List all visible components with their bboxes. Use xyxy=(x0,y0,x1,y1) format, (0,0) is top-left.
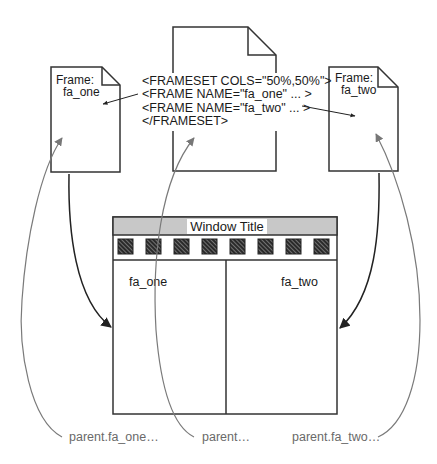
toolbar-button-icon[interactable] xyxy=(118,239,133,254)
arrow-fa-two-to-pane xyxy=(340,173,379,328)
caption-parent-fa-one: parent.fa_one… xyxy=(69,430,159,444)
frames-diagram: Frame: fa_one Frame: fa_two <FRAMESET CO… xyxy=(0,0,437,464)
frame-doc-fa-two: Frame: fa_two xyxy=(329,67,398,171)
window-title: Window Title xyxy=(190,219,264,234)
code-line: </FRAMESET> xyxy=(142,114,228,128)
toolbar-button-icon[interactable] xyxy=(286,239,301,254)
frame-doc-fa-one: Frame: fa_one xyxy=(51,67,120,172)
right-pane-label: fa_two xyxy=(281,275,318,289)
toolbar-button-icon[interactable] xyxy=(230,239,245,254)
toolbar-button-icon[interactable] xyxy=(202,239,217,254)
curve-parent-fa-two xyxy=(376,134,420,437)
caption-parent-fa-two: parent.fa_two… xyxy=(292,430,380,444)
browser-window: Window Title fa_one fa_two xyxy=(113,217,337,414)
curve-parent-fa-one xyxy=(21,138,62,437)
caption-parent: parent… xyxy=(202,430,250,444)
arrow-fa-one-to-pane xyxy=(69,174,111,327)
frame-doc-name: fa_two xyxy=(341,83,377,97)
code-line: <FRAME NAME="fa_two" ... > xyxy=(142,101,310,115)
toolbar-button-icon[interactable] xyxy=(258,239,273,254)
toolbar-button-icon[interactable] xyxy=(174,239,189,254)
toolbar-button-icon[interactable] xyxy=(314,239,329,254)
code-line: <FRAME NAME="fa_one" ... > xyxy=(142,87,312,101)
left-pane-label: fa_one xyxy=(129,275,167,289)
code-line: <FRAMESET COLS="50%,50%"> xyxy=(142,74,332,88)
frame-doc-name: fa_one xyxy=(63,85,100,99)
